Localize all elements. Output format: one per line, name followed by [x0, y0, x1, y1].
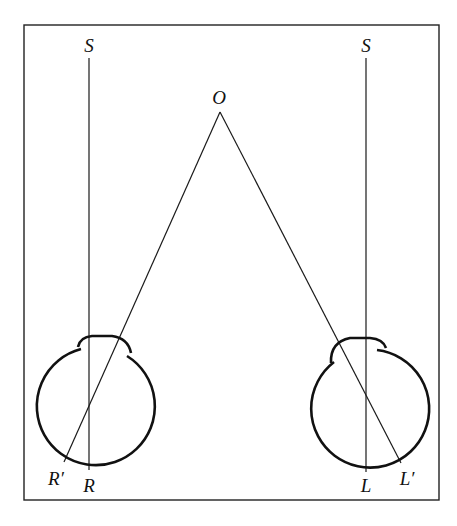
diagram-frame [24, 25, 439, 500]
binocular-diagram: S S O R′ R L L′ [0, 0, 457, 526]
left-eye [37, 336, 155, 465]
label-L-prime: L′ [399, 468, 416, 489]
line-O-to-R-prime [64, 112, 220, 462]
left-eye-cornea [78, 336, 131, 353]
left-eye-globe [37, 349, 155, 465]
label-R-prime: R′ [47, 468, 65, 489]
right-eye-globe [311, 350, 429, 468]
label-R: R [82, 475, 95, 496]
label-left-S: S [84, 35, 94, 56]
label-O: O [212, 87, 226, 108]
label-right-S: S [361, 35, 371, 56]
label-L: L [360, 475, 372, 496]
